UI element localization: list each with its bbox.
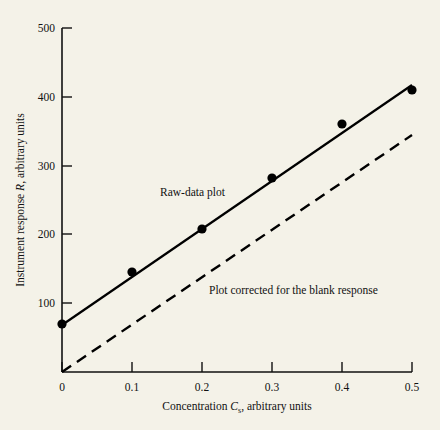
- y-tick-label-300: 300: [38, 160, 56, 172]
- x-tick-label-0.1: 0.1: [125, 381, 140, 393]
- x-tick-label-0.2: 0.2: [195, 381, 210, 393]
- y-axis-title-lead: Instrument response: [14, 191, 27, 287]
- chart-background: [0, 0, 440, 430]
- chart-figure: 500 400 300 200 100 Instrument response …: [0, 0, 440, 430]
- x-axis-title-tail: , arbitrary units: [241, 400, 312, 413]
- y-tick-label-100: 100: [38, 297, 56, 309]
- x-tick-label-0.4: 0.4: [335, 381, 350, 393]
- y-axis-title-tail: , arbitrary units: [14, 113, 27, 184]
- y-axis-title: Instrument response R, arbitrary units: [14, 113, 27, 287]
- data-point: [407, 85, 416, 94]
- y-tick-label-200: 200: [38, 228, 56, 240]
- x-tick-label-0: 0: [59, 381, 65, 393]
- chart-canvas: 500 400 300 200 100 Instrument response …: [0, 0, 440, 430]
- annotation-corrected-plot: Plot corrected for the blank response: [209, 284, 378, 297]
- y-axis-title-symbol: R: [14, 184, 26, 192]
- data-point: [127, 267, 136, 276]
- x-tick-label-0.3: 0.3: [265, 381, 280, 393]
- data-point: [337, 119, 346, 128]
- x-axis-title-lead: Concentration: [162, 400, 230, 412]
- data-point: [197, 224, 206, 233]
- x-tick-label-0.5: 0.5: [405, 381, 420, 393]
- y-tick-label-400: 400: [38, 91, 56, 103]
- data-point: [57, 319, 66, 328]
- data-point: [267, 173, 276, 182]
- annotation-raw-data-plot: Raw-data plot: [160, 186, 226, 199]
- y-tick-label-500: 500: [38, 22, 56, 34]
